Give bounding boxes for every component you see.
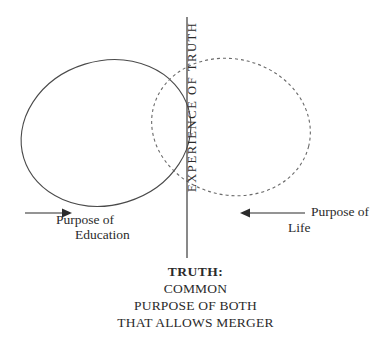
caption-truth-block: TRUTH: COMMON PURPOSE OF BOTH THAT ALLOW…	[0, 263, 391, 331]
label-purpose-of-education-line2: Education	[75, 228, 130, 242]
caption-line-2: COMMON	[0, 280, 391, 297]
label-purpose-of-life-line1: Purpose of	[311, 205, 369, 219]
diagram-canvas: EXPERIENCE OF TRUTH Purpose of Education…	[0, 0, 391, 345]
caption-line-4: THAT ALLOWS MERGER	[0, 314, 391, 331]
label-purpose-of-life-line2: Life	[288, 221, 311, 235]
label-purpose-of-education-line1: Purpose of	[56, 213, 114, 227]
purpose-of-education-ellipse	[3, 39, 210, 227]
caption-line-3: PURPOSE OF BOTH	[0, 297, 391, 314]
axis-label-experience-of-truth: EXPERIENCE OF TRUTH	[186, 12, 204, 192]
purpose-of-life-ellipse	[137, 42, 325, 213]
purpose-of-life-arrow	[240, 209, 305, 218]
caption-line-1: TRUTH:	[0, 263, 391, 280]
